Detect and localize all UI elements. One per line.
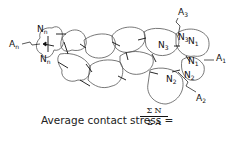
labels: An A1 A2 A3 Nn Nn N3 N3 N1 N1 N2 N2 bbox=[9, 7, 226, 104]
grain-4 bbox=[84, 34, 115, 58]
grain-3 bbox=[58, 54, 91, 82]
svg-text:N2: N2 bbox=[184, 70, 195, 81]
grain-contact-diagram: An A1 A2 A3 Nn Nn N3 N3 N1 N1 N2 N2 bbox=[0, 0, 231, 151]
svg-text:N1: N1 bbox=[188, 36, 199, 47]
svg-text:An: An bbox=[9, 39, 19, 50]
svg-text:A2: A2 bbox=[196, 93, 206, 104]
grain-2 bbox=[61, 30, 87, 51]
svg-text:A3: A3 bbox=[178, 7, 188, 18]
formula-denominator: Σ A bbox=[140, 118, 168, 127]
grain-5 bbox=[88, 60, 123, 88]
formula-numerator: Σ N bbox=[140, 106, 168, 115]
svg-text:N1: N1 bbox=[188, 56, 199, 67]
grain-7 bbox=[120, 52, 153, 75]
stress-formula-fraction: Σ N Σ A bbox=[140, 106, 168, 127]
svg-text:Nn: Nn bbox=[40, 54, 51, 65]
fraction-bar bbox=[140, 116, 168, 117]
svg-text:Nn: Nn bbox=[37, 24, 48, 35]
svg-text:N2: N2 bbox=[166, 74, 177, 85]
svg-text:N3: N3 bbox=[158, 40, 169, 51]
svg-text:A1: A1 bbox=[216, 53, 226, 64]
